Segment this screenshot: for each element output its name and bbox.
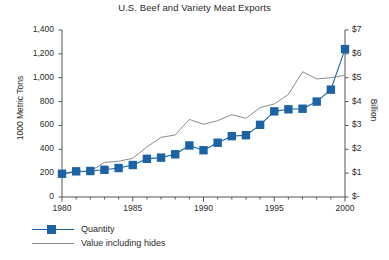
- x-axis-tick-label: 1980: [42, 203, 82, 213]
- y-axis-right-tick-label: $1: [352, 167, 382, 177]
- data-point-marker-quantity: [213, 139, 221, 147]
- data-point-marker-quantity: [242, 131, 250, 139]
- data-point-marker-quantity: [284, 105, 292, 113]
- y-axis-left-tick-label: 200: [20, 167, 54, 177]
- data-point-marker-quantity: [129, 161, 137, 169]
- y-axis-right-tick-label: $5: [352, 72, 382, 82]
- data-point-marker-quantity: [270, 107, 278, 115]
- data-point-marker-quantity: [199, 146, 207, 154]
- data-point-marker-quantity: [86, 167, 94, 175]
- y-axis-right-tick-label: $7: [352, 24, 382, 34]
- plot-area: [0, 0, 389, 260]
- data-point-marker-quantity: [327, 85, 335, 93]
- y-axis-right-tick-label: $6: [352, 48, 382, 58]
- data-point-marker-quantity: [58, 170, 66, 178]
- data-point-marker-quantity: [72, 167, 80, 175]
- y-axis-right-tick-label: $4: [352, 96, 382, 106]
- chart-legend: Quantity Value including hides: [32, 222, 165, 250]
- data-point-marker-quantity: [256, 121, 264, 129]
- legend-square-marker-icon: [47, 225, 56, 234]
- data-point-marker-quantity: [341, 45, 349, 53]
- data-point-marker-quantity: [313, 97, 321, 105]
- data-point-marker-quantity: [100, 166, 108, 174]
- legend-key-value: [32, 237, 74, 249]
- y-axis-left-tick-label: 0: [20, 191, 54, 201]
- chart-container: U.S. Beef and Variety Meat Exports 1000 …: [0, 0, 389, 260]
- x-axis-tick-label: 1990: [184, 203, 224, 213]
- data-point-marker-quantity: [171, 150, 179, 158]
- legend-key-quantity: [32, 223, 74, 235]
- data-point-marker-quantity: [298, 105, 306, 113]
- y-axis-left-tick-label: 1,400: [20, 24, 54, 34]
- x-axis-tick-label: 1985: [113, 203, 153, 213]
- series-line-value-including-hides: [62, 72, 345, 175]
- legend-line-icon: [32, 243, 74, 244]
- y-axis-right-tick-label: $2: [352, 143, 382, 153]
- y-axis-left-tick-label: 1,000: [20, 72, 54, 82]
- legend-label-value: Value including hides: [81, 238, 165, 248]
- data-point-marker-quantity: [143, 155, 151, 163]
- x-axis-tick-label: 2000: [325, 203, 365, 213]
- legend-item-quantity[interactable]: Quantity: [32, 222, 165, 236]
- data-point-marker-quantity: [157, 153, 165, 161]
- data-point-marker-quantity: [114, 164, 122, 172]
- legend-item-value[interactable]: Value including hides: [32, 236, 165, 250]
- y-axis-right-tick-label: $3: [352, 119, 382, 129]
- y-axis-left-tick-label: 400: [20, 143, 54, 153]
- y-axis-left-tick-label: 600: [20, 119, 54, 129]
- y-axis-left-tick-label: 1,200: [20, 48, 54, 58]
- data-point-marker-quantity: [228, 132, 236, 140]
- legend-label-quantity: Quantity: [81, 224, 115, 234]
- y-axis-left-tick-label: 800: [20, 96, 54, 106]
- y-axis-right-tick-label: $-: [352, 191, 382, 201]
- x-axis-tick-label: 1995: [254, 203, 294, 213]
- data-point-marker-quantity: [185, 141, 193, 149]
